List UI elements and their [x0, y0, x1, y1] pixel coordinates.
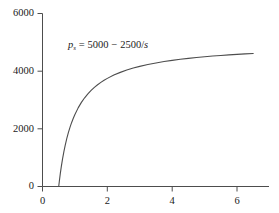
- y-tick-label-0: 0: [0, 181, 34, 192]
- y-axis-ticks: [38, 14, 43, 187]
- x-axis-ticks: [43, 187, 238, 192]
- supply-curve: [59, 53, 254, 186]
- y-tick-label-2000: 2000: [0, 124, 34, 135]
- supply-equation-annotation: ps = 5000 − 2500/s: [68, 40, 148, 51]
- y-tick-label-6000: 6000: [0, 8, 34, 19]
- plot-area: [0, 0, 279, 213]
- x-tick-label-6: 6: [227, 196, 247, 207]
- equation-subscript: s: [73, 44, 76, 52]
- equation-coefficient: 2500: [120, 39, 141, 50]
- chart-figure: 0 2000 4000 6000 0 2 4 6 ps = 5000 − 250…: [0, 0, 279, 213]
- y-tick-label-4000: 4000: [0, 66, 34, 77]
- x-tick-label-0: 0: [33, 196, 53, 207]
- x-tick-label-2: 2: [97, 196, 117, 207]
- equation-variable: s: [144, 39, 148, 50]
- x-tick-label-4: 4: [162, 196, 182, 207]
- equation-intercept: 5000: [88, 39, 109, 50]
